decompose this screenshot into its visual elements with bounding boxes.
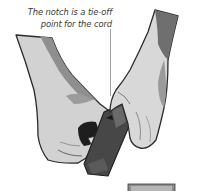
callout-line-2: point for the cord [22, 18, 112, 30]
illustration-canvas: The notch is a tie-off point for the cor… [0, 0, 203, 191]
callout-line-1: The notch is a tie-off [22, 6, 112, 18]
callout-text: The notch is a tie-off point for the cor… [22, 6, 112, 30]
